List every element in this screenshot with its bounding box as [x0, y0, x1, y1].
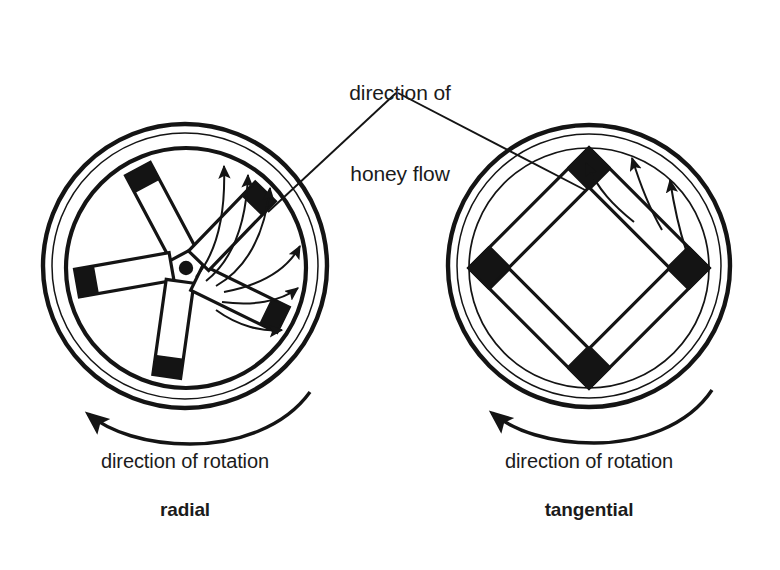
flow-callout-line1: direction of	[300, 79, 500, 106]
diagram-canvas: direction of honey flow direction of rot…	[0, 0, 780, 570]
radial-rotation-label: direction of rotation	[45, 448, 325, 474]
flow-callout-label: direction of honey flow	[300, 24, 500, 242]
radial-frame	[75, 253, 174, 297]
radial-hub-dot	[179, 261, 193, 275]
radial-frame	[126, 162, 196, 260]
radial-frame	[153, 279, 194, 378]
flow-callout-line2: honey flow	[300, 160, 500, 187]
radial-rotation-arrow	[88, 392, 310, 444]
radial-panel-title: radial	[95, 498, 275, 523]
tangential-rotation-label: direction of rotation	[449, 448, 729, 474]
tangential-panel-title: tangential	[499, 498, 679, 523]
tangential-frame-set	[469, 148, 709, 388]
